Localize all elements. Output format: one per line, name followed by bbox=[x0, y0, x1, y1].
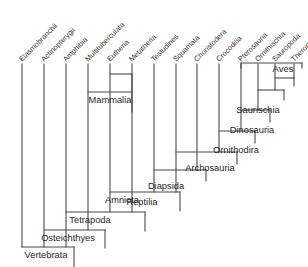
tip-line-group bbox=[22, 64, 294, 247]
clade-label-saurischia: Saurischia bbox=[236, 105, 280, 115]
clade-label-vertebrata: Vertebrata bbox=[25, 250, 69, 260]
aves-bracket-group: Aves bbox=[241, 63, 302, 74]
clade-label-group: MammaliaSaurischiaDinosauriaOrnithodiraA… bbox=[25, 95, 281, 260]
clade-label-diapsida: Diapsida bbox=[148, 181, 185, 191]
clade-label-archosauria: Archosauria bbox=[185, 163, 235, 173]
clade-label-ornithodira: Ornithodira bbox=[213, 145, 260, 155]
tip-label-group: ElasmobranchiiActinopterygiiAmphibiaMult… bbox=[17, 18, 308, 64]
cladogram-figure: ElasmobranchiiActinopterygiiAmphibiaMult… bbox=[0, 0, 308, 267]
clade-label-osteichthyes: Osteichthyes bbox=[41, 233, 95, 243]
clade-label-tetrapoda: Tetrapoda bbox=[69, 215, 111, 225]
aves-label: Aves bbox=[272, 63, 293, 74]
clade-label-amniota: Amniota bbox=[105, 195, 140, 205]
clade-label-dinosauria: Dinosauria bbox=[230, 125, 275, 135]
cladogram-svg: ElasmobranchiiActinopterygiiAmphibiaMult… bbox=[0, 0, 308, 267]
clade-label-mammalia: Mammalia bbox=[89, 95, 133, 105]
